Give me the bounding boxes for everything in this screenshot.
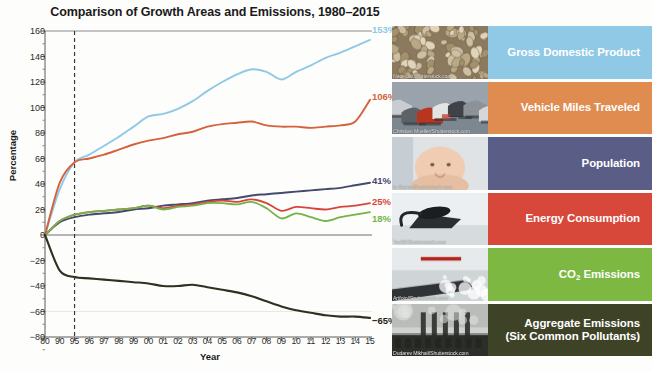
x-axis-tick-label: 02 (173, 336, 182, 346)
legend-row-6[interactable]: Dudarev Mikhail/Shutterstock.comAggregat… (392, 304, 652, 357)
plot-area: 160140120100806040200−20−40−60−80 809095… (0, 0, 392, 371)
baby-photo: In Green/Shutterstock.com (392, 137, 488, 190)
series-end-label-4: 25% (372, 196, 391, 207)
x-axis-tick-label: 09 (277, 336, 286, 346)
series-line-4 (45, 199, 370, 235)
x-axis-tick-label: 15 (365, 336, 374, 346)
series-line-5 (45, 202, 370, 235)
photo-credit: Tsv55/Shutterstock.com (393, 239, 446, 245)
y-axis-tick-label: 20 (13, 205, 45, 215)
legend-label: Energy Consumption (488, 212, 652, 225)
x-axis-tick-label: 80 (40, 336, 49, 346)
series-line-1 (45, 40, 370, 235)
legend-label: Vehicle Miles Traveled (488, 101, 652, 114)
x-axis-tick-label: 03 (188, 336, 197, 346)
x-axis-tick-label: 01 (158, 336, 167, 346)
legend-label: Gross Domestic Product (488, 46, 652, 59)
legend-row-2[interactable]: Christian Mueller/Shutterstock.comVehicl… (392, 82, 652, 135)
x-axis-tick-label: 96 (85, 336, 94, 346)
legend-row-1[interactable]: Nata-Lia/Shutterstock.comGross Domestic … (392, 26, 652, 79)
legend-label: CO2 Emissions (488, 268, 652, 281)
x-axis-tick-label: 90 (55, 336, 64, 346)
x-axis-tick-label: 12 (321, 336, 330, 346)
y-axis-tick-label: −40 (13, 281, 45, 291)
legend-label: Aggregate Emissions(Six Common Pollutant… (488, 317, 652, 343)
x-axis-ticks: 8090959697989900010203040506070809101112… (0, 336, 392, 352)
x-axis-tick-label: 00 (144, 336, 153, 346)
x-axis-tick-label: 14 (350, 336, 359, 346)
x-axis-tick-label: 04 (203, 336, 212, 346)
y-axis-tick-label: 80 (13, 128, 45, 138)
x-axis-tick-label: 05 (218, 336, 227, 346)
y-axis-ticks: 160140120100806040200−20−40−60−80 (0, 0, 45, 371)
series-end-label-5: 18% (372, 213, 391, 224)
photo-credit: Artfoto/Shutterstock.com (393, 295, 447, 301)
y-axis-tick-label: 0 (13, 230, 45, 240)
legend-row-4[interactable]: Tsv55/Shutterstock.comEnergy Consumption (392, 193, 652, 246)
y-axis-tick-label: 60 (13, 154, 45, 164)
smokestacks-photo: Dudarev Mikhail/Shutterstock.com (392, 304, 488, 357)
y-axis-tick-label: 160 (13, 26, 45, 36)
series-line-6 (45, 235, 370, 318)
iron-photo: Tsv55/Shutterstock.com (392, 193, 488, 246)
x-axis-tick-label: 10 (291, 336, 300, 346)
y-axis-tick-label: 120 (13, 77, 45, 87)
line-chart-svg (0, 0, 392, 371)
legend-row-5[interactable]: Artfoto/Shutterstock.comCO2 Emissions (392, 248, 652, 301)
x-axis-tick-label: 98 (114, 336, 123, 346)
photo-credit: In Green/Shutterstock.com (393, 184, 452, 190)
x-axis-tick-label: 08 (262, 336, 271, 346)
legend-panel: Nata-Lia/Shutterstock.comGross Domestic … (392, 26, 652, 356)
y-axis-tick-label: 40 (13, 179, 45, 189)
coins-photo: Nata-Lia/Shutterstock.com (392, 26, 488, 79)
exhaust-photo: Artfoto/Shutterstock.com (392, 248, 488, 301)
y-axis-tick-label: 100 (13, 103, 45, 113)
photo-credit: Nata-Lia/Shutterstock.com (393, 73, 452, 79)
x-axis-tick-label: 07 (247, 336, 256, 346)
photo-credit: Christian Mueller/Shutterstock.com (393, 128, 470, 134)
x-axis-tick-label: 95 (70, 336, 79, 346)
photo-credit: Dudarev Mikhail/Shutterstock.com (393, 350, 469, 356)
x-axis-tick-label: 13 (336, 336, 345, 346)
y-axis-title: Percentage (7, 126, 18, 186)
y-axis-tick-label: −20 (13, 256, 45, 266)
traffic-photo: Christian Mueller/Shutterstock.com (392, 82, 488, 135)
x-axis-tick-label: 11 (306, 336, 315, 346)
x-axis-title: Year (45, 351, 375, 362)
y-axis-tick-label: −60 (13, 307, 45, 317)
series-end-label-3: 41% (372, 174, 391, 185)
x-axis-tick-label: 99 (129, 336, 138, 346)
x-axis-tick-label: 06 (232, 336, 241, 346)
x-axis-tick-label: 97 (99, 336, 108, 346)
y-axis-tick-label: 140 (13, 52, 45, 62)
legend-row-3[interactable]: In Green/Shutterstock.comPopulation (392, 137, 652, 190)
chart-page: Comparison of Growth Areas and Emissions… (0, 0, 652, 371)
legend-label: Population (488, 157, 652, 170)
